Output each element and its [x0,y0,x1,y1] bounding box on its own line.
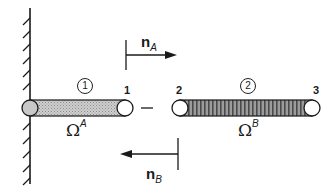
omega-symbol: Ω [66,120,80,140]
node-3 [304,100,320,116]
node-2 [172,100,188,116]
normal-b-subscript: B [155,174,162,185]
normal-symbol: n [146,165,155,182]
normal-a-label: nA [141,33,157,53]
node-3-label: 3 [313,84,319,96]
body-b [172,100,320,116]
node-2-label: 2 [176,84,182,96]
domain-b-superscript: B [252,118,259,129]
body-b-marker: 2 [240,78,256,94]
body-a-marker: 1 [77,78,93,94]
body-a [22,100,133,116]
omega-symbol: Ω [238,120,252,140]
body-a-fixed-node [22,100,38,116]
fixed-wall [23,8,30,185]
domain-a-label: ΩA [66,120,87,140]
normal-symbol: n [141,33,150,50]
domain-b-label: ΩB [238,120,259,140]
normal-a-subscript: A [150,42,157,53]
diagram-canvas [0,0,336,193]
node-1-label: 1 [124,84,130,96]
node-1 [117,100,133,116]
normal-b-label: nB [146,165,162,185]
arrowhead-right-icon [165,51,177,59]
arrowhead-left-icon [120,150,132,158]
domain-a-superscript: A [80,118,87,129]
